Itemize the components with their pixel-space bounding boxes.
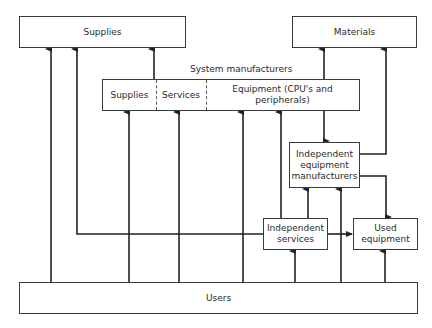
connector-lines	[0, 0, 432, 328]
supplies-box: Supplies	[19, 16, 186, 48]
system-manufacturers-box: Supplies Services Equipment (CPU's and p…	[102, 79, 360, 111]
system-segment-services: Services	[156, 80, 206, 110]
users-box: Users	[19, 282, 418, 314]
independent-equipment-manufacturers-box: Independent equipment manufacturers	[289, 142, 360, 188]
supplies-label: Supplies	[83, 27, 121, 38]
users-label: Users	[206, 293, 231, 304]
system-segment-supplies: Supplies	[103, 80, 156, 110]
system-segment-equipment: Equipment (CPU's and peripherals)	[206, 80, 359, 110]
materials-box: Materials	[292, 16, 417, 48]
used-equipment-box: Used equipment	[353, 218, 418, 250]
materials-label: Materials	[334, 27, 375, 38]
system-manufacturers-label: System manufacturers	[190, 64, 292, 75]
independent-services-box: Independent services	[263, 218, 328, 250]
